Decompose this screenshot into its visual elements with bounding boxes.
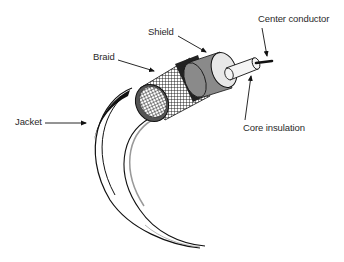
- label-core-insulation: Core insulation: [243, 122, 305, 133]
- arrow-braid: [118, 60, 154, 71]
- arrow-shield: [178, 36, 206, 52]
- label-braid: Braid: [93, 51, 115, 62]
- label-jacket: Jacket: [15, 116, 42, 127]
- label-center-conductor: Center conductor: [258, 13, 329, 24]
- label-shield: Shield: [148, 26, 174, 37]
- arrow-core-insulation: [245, 76, 251, 120]
- coax-cable-diagram: Center conductor Shield Braid Jacket Cor…: [0, 0, 344, 262]
- arrow-center-conductor: [262, 28, 267, 56]
